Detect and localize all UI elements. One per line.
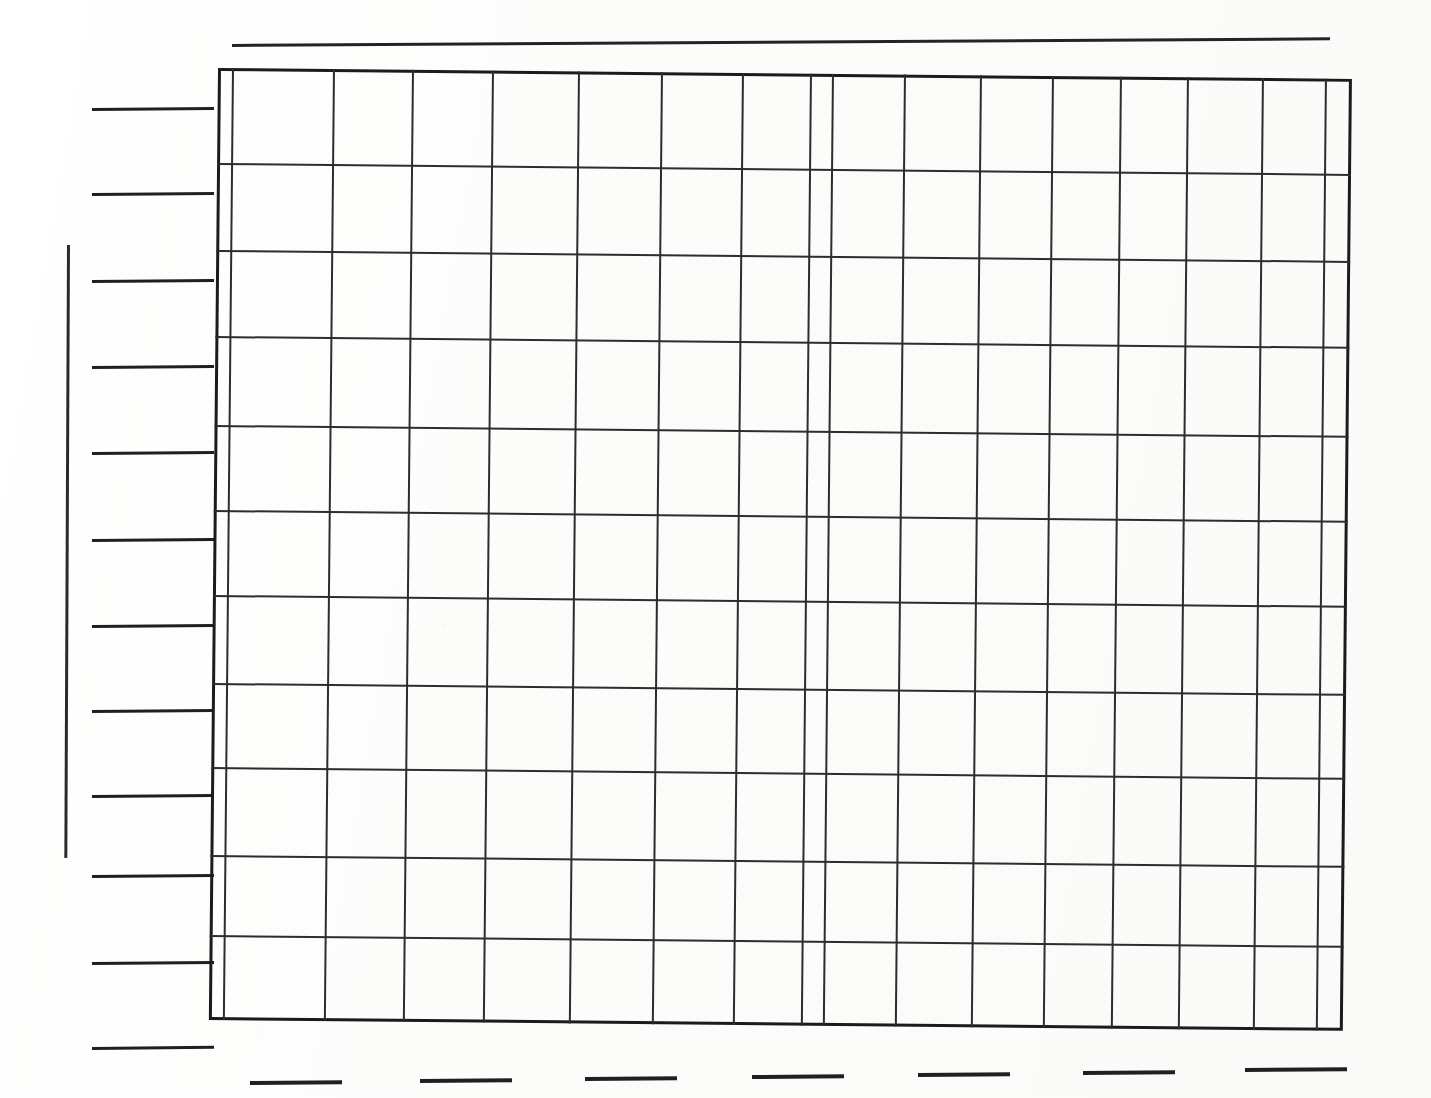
x-tick-label-blank[interactable]: [250, 1080, 342, 1085]
y-tick-label-blank[interactable]: [92, 538, 214, 542]
x-tick-label-blank[interactable]: [585, 1076, 677, 1081]
y-axis-title-blank[interactable]: [64, 245, 70, 858]
y-tick-label-blank[interactable]: [92, 1046, 214, 1050]
y-tick-label-blank[interactable]: [92, 365, 214, 369]
worksheet-page: [0, 0, 1431, 1098]
x-tick-label-blank[interactable]: [1245, 1067, 1347, 1072]
x-tick-label-blank[interactable]: [918, 1072, 1010, 1077]
y-tick-label-blank[interactable]: [92, 709, 214, 713]
y-tick-label-blank[interactable]: [92, 107, 214, 111]
x-tick-label-blank[interactable]: [752, 1074, 844, 1079]
plot-area[interactable]: [209, 68, 1352, 1031]
x-tick-label-blank[interactable]: [1083, 1070, 1175, 1075]
y-tick-label-blank[interactable]: [92, 874, 214, 878]
y-tick-label-blank[interactable]: [92, 624, 214, 628]
x-tick-label-blank[interactable]: [420, 1078, 512, 1083]
y-tick-label-blank[interactable]: [92, 279, 214, 283]
y-tick-label-blank[interactable]: [92, 794, 214, 798]
y-tick-label-blank[interactable]: [92, 961, 214, 965]
y-tick-label-blank[interactable]: [92, 451, 214, 455]
graph-title-blank[interactable]: [232, 37, 1330, 47]
y-tick-label-blank[interactable]: [92, 192, 214, 196]
